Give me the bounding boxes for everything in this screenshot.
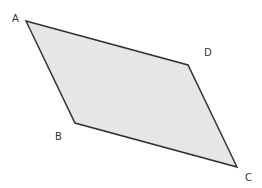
vertex-label-c: C [245, 172, 252, 183]
vertex-label-a: A [12, 13, 19, 24]
parallelogram-diagram: A D C B [0, 0, 262, 188]
vertex-label-b: B [55, 131, 62, 142]
vertex-label-d: D [204, 47, 212, 58]
parallelogram-abcd [26, 21, 237, 167]
